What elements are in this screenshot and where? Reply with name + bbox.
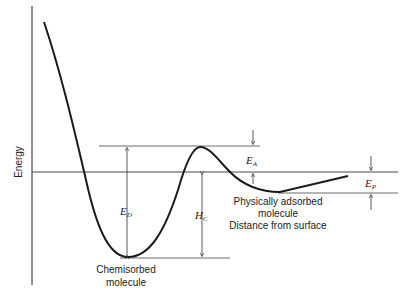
adsorption-energy-diagram: Energy ED HC EA EP Chemisorbed molecule … bbox=[0, 0, 415, 296]
physisorbed-label-line2: molecule bbox=[258, 208, 298, 219]
y-axis-label: Energy bbox=[13, 146, 24, 178]
ed-symbol: ED bbox=[119, 205, 132, 219]
physisorbed-label-line1: Physically adsorbed bbox=[234, 196, 323, 207]
ea-symbol: EA bbox=[245, 154, 258, 168]
ep-symbol: EP bbox=[364, 177, 377, 191]
hc-symbol: HC bbox=[194, 209, 208, 223]
chemisorbed-label-line2: molecule bbox=[106, 277, 146, 288]
x-axis-label: Distance from surface bbox=[229, 220, 327, 231]
chemisorbed-label-line1: Chemisorbed bbox=[96, 264, 155, 275]
